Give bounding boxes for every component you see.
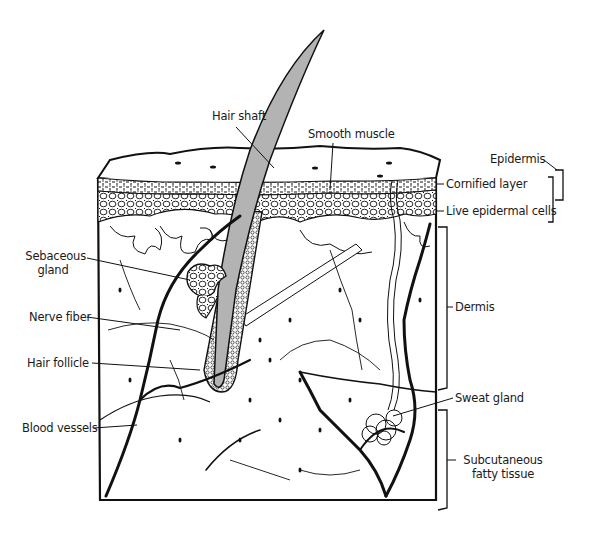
label-live-epidermal-cells: Live epidermal cells	[446, 204, 557, 218]
label-dermis: Dermis	[455, 300, 495, 314]
label-hair-follicle: Hair follicle	[27, 356, 89, 370]
label-subcutaneous-line2: fatty tissue	[458, 467, 548, 481]
label-sebaceous-line1: Sebaceous	[20, 249, 86, 263]
label-subcutaneous-line1: Subcutaneous	[458, 453, 548, 467]
label-sebaceous-gland: Sebaceous gland	[20, 249, 86, 277]
label-hair-shaft: Hair shaft	[212, 109, 266, 123]
label-sebaceous-line2: gland	[20, 263, 86, 277]
bracket-dermis	[438, 227, 447, 390]
label-blood-vessels: Blood vessels	[22, 421, 98, 435]
label-smooth-muscle: Smooth muscle	[308, 127, 395, 141]
bracket-epidermis	[555, 170, 563, 200]
label-epidermis: Epidermis	[490, 152, 545, 166]
bracket-subcutaneous	[438, 410, 447, 510]
skin-block-outline	[98, 178, 436, 500]
leader-epidermis	[544, 160, 557, 170]
label-cornified-layer: Cornified layer	[446, 177, 527, 191]
label-sweat-gland: Sweat gland	[455, 391, 524, 405]
label-nerve-fiber: Nerve fiber	[29, 310, 91, 324]
label-subcutaneous-fatty-tissue: Subcutaneous fatty tissue	[458, 453, 548, 481]
